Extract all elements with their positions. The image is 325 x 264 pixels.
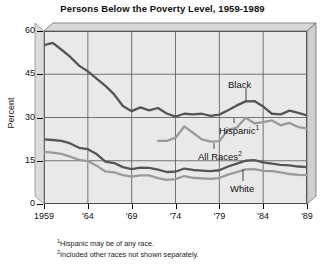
allraces-label: All Races2	[198, 150, 242, 162]
footnote-marker: 1	[255, 124, 259, 131]
poverty-level-line-chart: Persons Below the Poverty Level, 1959-19…	[0, 0, 325, 264]
chart-title: Persons Below the Poverty Level, 1959-19…	[0, 3, 325, 14]
y-tick-mark	[37, 74, 43, 75]
x-tick-label: 1959	[24, 212, 64, 221]
y-tick-mark	[37, 118, 43, 119]
series-label-text: All Races	[198, 151, 238, 162]
x-tick-mark	[132, 204, 133, 209]
footnote-text: Included other races not shown separatel…	[60, 250, 199, 259]
series-label-text: White	[230, 183, 254, 194]
y-tick-mark	[37, 31, 43, 32]
footnote-text: Hispanic may be of any race.	[60, 239, 154, 248]
footnote-2: 2Included other races not shown separate…	[57, 249, 199, 259]
y-tick-mark	[37, 204, 43, 205]
plot-lines	[44, 31, 307, 204]
x-tick-label: '79	[199, 212, 239, 221]
x-tick-label: '89	[287, 212, 325, 221]
x-tick-mark	[263, 204, 264, 209]
x-tick-mark	[88, 204, 89, 209]
x-tick-mark	[219, 204, 220, 209]
y-tick-label: 60	[9, 26, 35, 35]
black-label: Black	[228, 79, 251, 90]
x-tick-mark	[307, 204, 308, 209]
x-tick-mark	[176, 204, 177, 209]
x-tick-mark	[44, 204, 45, 209]
footnote-marker: 2	[238, 150, 242, 157]
y-tick-label: 30	[9, 113, 35, 122]
y-tick-mark	[37, 161, 43, 162]
x-tick-label: '84	[243, 212, 283, 221]
x-tick-label: '69	[112, 212, 152, 221]
series-label-text: Black	[228, 79, 251, 90]
y-tick-label: 0	[9, 199, 35, 208]
hispanic-label: Hispanic1	[219, 124, 259, 136]
series-label-text: Hispanic	[219, 125, 255, 136]
y-tick-label: 45	[9, 69, 35, 78]
white-label: White	[230, 183, 254, 194]
x-tick-label: '64	[68, 212, 108, 221]
x-tick-label: '74	[156, 212, 196, 221]
footnote-1: 1Hispanic may be of any race.	[57, 238, 154, 248]
y-tick-label: 15	[9, 156, 35, 165]
